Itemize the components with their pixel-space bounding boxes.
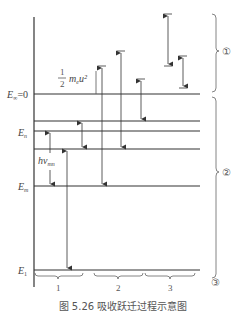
kinetic-energy-label: 1 2 meu² bbox=[58, 67, 88, 89]
transition-arrows bbox=[50, 14, 187, 268]
right-braces bbox=[212, 14, 219, 278]
label-e-m: Em bbox=[17, 181, 29, 193]
group-label-3: 3 bbox=[168, 283, 173, 293]
region-label-1: ① bbox=[222, 46, 231, 57]
brace-group-3 bbox=[145, 273, 195, 279]
figure-caption: 图 5.26 吸收跃迁过程示意图 bbox=[59, 300, 188, 312]
svg-text:meu²: meu² bbox=[69, 73, 88, 85]
brace-region-2 bbox=[212, 97, 219, 278]
svg-text:2: 2 bbox=[60, 79, 65, 89]
group-label-1: 1 bbox=[56, 283, 61, 293]
region-label-2: ② bbox=[222, 167, 231, 178]
brace-group-2 bbox=[94, 273, 143, 279]
label-e-infinity: E∞=0 bbox=[6, 89, 28, 101]
brace-group-1 bbox=[35, 273, 83, 279]
energy-levels bbox=[34, 94, 200, 270]
bottom-braces bbox=[35, 273, 195, 279]
absorption-transition-diagram: E∞=0 En Em E1 1 2 meu² hνmn bbox=[0, 0, 246, 318]
group-label-2: 2 bbox=[116, 283, 121, 293]
label-e-n: En bbox=[17, 127, 27, 139]
brace-region-1 bbox=[212, 14, 219, 92]
label-e-1: E1 bbox=[17, 265, 27, 277]
svg-text:1: 1 bbox=[60, 67, 65, 77]
region-label-3: ③ bbox=[211, 277, 220, 288]
photon-energy-label: hνmn bbox=[38, 155, 55, 167]
